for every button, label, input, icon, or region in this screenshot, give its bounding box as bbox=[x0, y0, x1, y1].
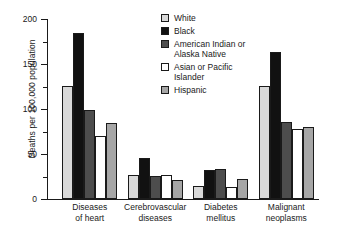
y-tick-label: 100 bbox=[23, 105, 37, 114]
bar bbox=[204, 170, 215, 199]
x-tick-label: Diabetesmellitus bbox=[188, 202, 254, 223]
y-axis-title: Deaths per 100,000 population bbox=[27, 4, 37, 194]
bar bbox=[237, 179, 248, 199]
bar bbox=[226, 187, 237, 199]
legend-label: Hispanic bbox=[174, 85, 207, 95]
bar bbox=[292, 129, 303, 199]
legend-label: American Indian or Alaska Native bbox=[174, 39, 245, 59]
bar bbox=[128, 175, 139, 199]
bar bbox=[106, 123, 117, 200]
y-tick-label: 150 bbox=[23, 60, 37, 69]
bar-chart-figure: Deaths per 100,000 population 0501001502… bbox=[0, 0, 340, 234]
x-axis-baseline bbox=[47, 199, 319, 200]
y-tick-label: 0 bbox=[32, 195, 37, 204]
legend-item: Asian or Pacific Islander bbox=[161, 62, 337, 82]
legend-item: American Indian or Alaska Native bbox=[161, 39, 337, 59]
bar bbox=[95, 136, 106, 199]
x-axis-tick-labels: Diseasesof heartCerebrovasculardiseasesD… bbox=[57, 202, 319, 223]
y-tick-label: 200 bbox=[23, 15, 37, 24]
bar bbox=[259, 86, 270, 199]
y-tick-label: 50 bbox=[28, 150, 37, 159]
legend-swatch-icon bbox=[161, 27, 169, 35]
legend-swatch-icon bbox=[161, 40, 169, 48]
chart-legend: WhiteBlackAmerican Indian or Alaska Nati… bbox=[161, 13, 337, 98]
bar bbox=[150, 176, 161, 199]
bar bbox=[84, 110, 95, 199]
bar bbox=[193, 186, 204, 200]
y-tick-minor bbox=[43, 132, 47, 133]
legend-swatch-icon bbox=[161, 86, 169, 94]
bar bbox=[281, 122, 292, 199]
y-axis-spine bbox=[47, 19, 48, 200]
legend-item: Black bbox=[161, 26, 337, 36]
bar bbox=[62, 86, 73, 199]
legend-swatch-icon bbox=[161, 14, 169, 22]
legend-item: White bbox=[161, 13, 337, 23]
bar bbox=[215, 169, 226, 199]
y-tick-major bbox=[41, 109, 47, 110]
bar bbox=[73, 33, 84, 200]
bar bbox=[161, 175, 172, 199]
legend-label: White bbox=[174, 13, 196, 23]
legend-label: Black bbox=[174, 26, 195, 36]
y-tick-minor bbox=[43, 177, 47, 178]
y-tick-major bbox=[41, 64, 47, 65]
bar bbox=[172, 180, 183, 199]
legend-swatch-icon bbox=[161, 63, 169, 71]
bar-group bbox=[57, 19, 123, 199]
bar bbox=[139, 158, 150, 199]
bar bbox=[303, 127, 314, 199]
x-tick-label: Diseasesof heart bbox=[57, 202, 123, 223]
legend-item: Hispanic bbox=[161, 85, 337, 95]
y-tick-minor bbox=[43, 42, 47, 43]
y-tick-major bbox=[41, 199, 47, 200]
y-tick-major bbox=[41, 19, 47, 20]
y-tick-minor bbox=[43, 87, 47, 88]
x-tick-label: Malignantneoplasms bbox=[254, 202, 320, 223]
y-tick-major bbox=[41, 154, 47, 155]
legend-label: Asian or Pacific Islander bbox=[174, 62, 233, 82]
x-tick-label: Cerebrovasculardiseases bbox=[123, 202, 189, 223]
